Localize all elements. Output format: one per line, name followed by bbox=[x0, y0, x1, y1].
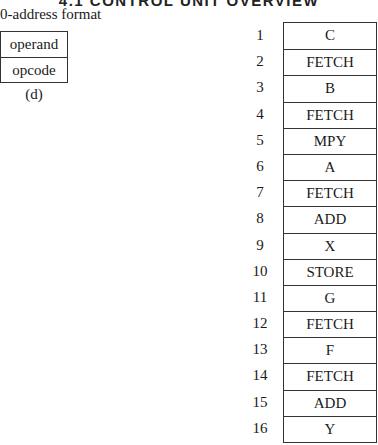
line-number: 2 bbox=[240, 48, 280, 74]
program-instruction: X bbox=[284, 233, 376, 259]
program-instruction: ADD bbox=[284, 206, 376, 232]
line-number: 4 bbox=[240, 101, 280, 127]
program-instruction: G bbox=[284, 285, 376, 311]
format-field-operand: operand bbox=[1, 32, 67, 57]
program-instruction: F bbox=[284, 337, 376, 363]
line-number: 16 bbox=[240, 415, 280, 441]
line-number: 15 bbox=[240, 389, 280, 415]
program-table: CFETCHBFETCHMPYAFETCHADDXSTOREGFETCHFFET… bbox=[283, 22, 377, 443]
program-instruction: FETCH bbox=[284, 49, 376, 75]
line-number: 12 bbox=[240, 310, 280, 336]
instruction-format-box: operand opcode bbox=[0, 31, 68, 83]
line-number: 8 bbox=[240, 205, 280, 231]
program-instruction: B bbox=[284, 75, 376, 101]
program-instruction: FETCH bbox=[284, 180, 376, 206]
format-caption: (d) bbox=[0, 86, 68, 103]
line-number: 1 bbox=[240, 22, 280, 48]
line-number: 13 bbox=[240, 336, 280, 362]
program-instruction: MPY bbox=[284, 128, 376, 154]
line-number: 3 bbox=[240, 74, 280, 100]
format-field-opcode: opcode bbox=[1, 57, 67, 82]
line-number: 6 bbox=[240, 153, 280, 179]
line-number: 9 bbox=[240, 232, 280, 258]
program-instruction: FETCH bbox=[284, 363, 376, 389]
line-number: 14 bbox=[240, 362, 280, 388]
program-instruction: FETCH bbox=[284, 311, 376, 337]
line-number: 11 bbox=[240, 284, 280, 310]
program-instruction: STORE bbox=[284, 259, 376, 285]
line-number: 10 bbox=[240, 258, 280, 284]
program-instruction: A bbox=[284, 154, 376, 180]
program-instruction: FETCH bbox=[284, 102, 376, 128]
program-instruction: ADD bbox=[284, 390, 376, 416]
line-number: 5 bbox=[240, 127, 280, 153]
line-number: 7 bbox=[240, 179, 280, 205]
program-instruction: C bbox=[284, 23, 376, 49]
program-instruction: Y bbox=[284, 416, 376, 442]
format-title: 0-address format bbox=[0, 6, 101, 23]
program-line-numbers: 12345678910111213141516 bbox=[240, 22, 280, 441]
